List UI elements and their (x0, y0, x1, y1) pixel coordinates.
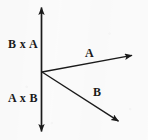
label-vector-a: A (85, 47, 94, 59)
figure-canvas (0, 0, 148, 140)
label-b-cross-a: B x A (8, 38, 38, 50)
vector-b-arrow (42, 72, 119, 121)
vector-cross-product-figure: B x A A x B A B (0, 0, 148, 140)
label-vector-b: B (93, 86, 101, 98)
label-a-cross-b: A x B (8, 92, 38, 104)
